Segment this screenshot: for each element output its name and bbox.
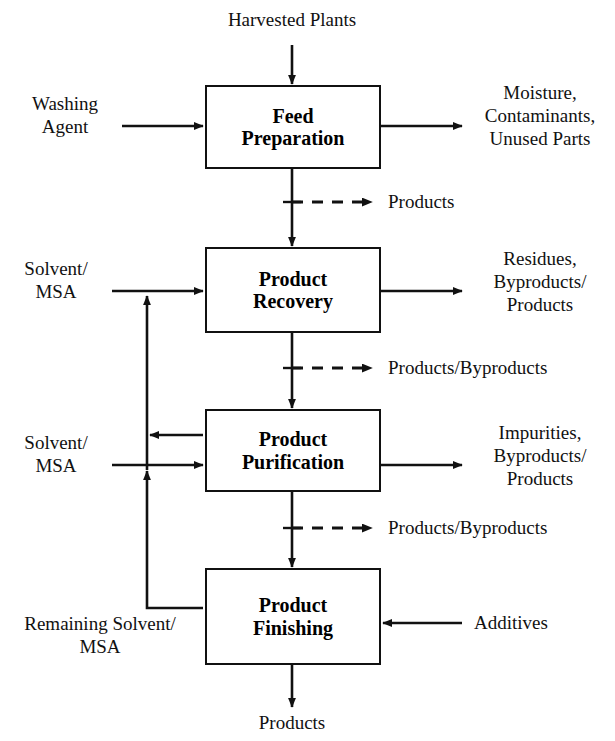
stream-label-products-1: Products xyxy=(388,191,568,214)
stream-label-remaining-solvent-msa: Remaining Solvent/ MSA xyxy=(4,613,196,659)
unit-box-product-recovery[interactable]: Product Recovery xyxy=(205,247,381,333)
stream-label-harvested-plants: Harvested Plants xyxy=(192,9,392,32)
stream-label-solvent-msa-purification: Solvent/ MSA xyxy=(2,432,110,478)
stream-label-solvent-msa-recovery: Solvent/ MSA xyxy=(2,258,110,304)
line-recycle-riser-lower xyxy=(147,471,203,608)
stream-label-impurities-byproducts: Impurities, Byproducts/ Products xyxy=(466,422,614,490)
unit-label-product-recovery: Product Recovery xyxy=(253,268,333,313)
stream-label-moisture-contaminants: Moisture, Contaminants, Unused Parts xyxy=(466,82,614,150)
stream-label-washing-agent: Washing Agent xyxy=(10,93,120,139)
unit-label-product-purification: Product Purification xyxy=(242,428,344,473)
process-flow-diagram: Feed Preparation Product Recovery Produc… xyxy=(0,0,615,741)
stream-label-additives: Additives xyxy=(474,612,614,635)
stream-label-products-byproducts-2: Products/Byproducts xyxy=(388,517,614,540)
unit-box-feed-preparation[interactable]: Feed Preparation xyxy=(205,85,381,169)
unit-box-product-finishing[interactable]: Product Finishing xyxy=(205,568,381,665)
unit-label-feed-preparation: Feed Preparation xyxy=(242,105,345,150)
unit-box-product-purification[interactable]: Product Purification xyxy=(205,409,381,492)
stream-label-products-final: Products xyxy=(192,712,392,735)
stream-label-residues-byproducts: Residues, Byproducts/ Products xyxy=(466,248,614,316)
stream-label-products-byproducts-1: Products/Byproducts xyxy=(388,357,614,380)
unit-label-product-finishing: Product Finishing xyxy=(253,594,333,639)
